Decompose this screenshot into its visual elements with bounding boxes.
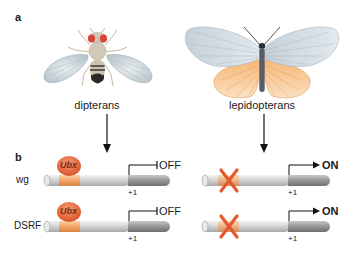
- butterfly-illustration: [185, 27, 338, 98]
- gene-label-wg: wg: [16, 174, 29, 185]
- dna-upstream: [44, 175, 130, 186]
- dna-coding: [288, 175, 330, 186]
- repressed-promoter-arrow: [129, 165, 157, 175]
- dna-upstream: [202, 175, 290, 186]
- tss-label: +1: [288, 188, 297, 197]
- ubx-label: Ubx: [60, 160, 77, 170]
- tss-label: +1: [288, 234, 297, 243]
- state-on-label: ON: [322, 205, 339, 217]
- gene-label-dsrf: DSRF: [14, 220, 41, 231]
- panel-label-b: b: [15, 151, 22, 163]
- label-lepidopterans: lepidopterans: [212, 99, 312, 111]
- butterfly-body: [259, 48, 264, 92]
- state-off-label: OFF: [159, 205, 181, 217]
- ubx-binding-site: [59, 221, 80, 232]
- fly-eye-right: [100, 35, 107, 43]
- fly-wing-left: [44, 54, 88, 82]
- arrow-dipterans-down: [103, 114, 111, 153]
- ubx-binding-site: [59, 175, 80, 186]
- lepidopteran-dsrf-construct: [202, 208, 330, 238]
- dna-upstream: [202, 221, 290, 232]
- arrow-lepidopterans-down: [260, 114, 268, 153]
- fly-thorax: [89, 42, 106, 60]
- dna-upstream: [44, 221, 130, 232]
- fly-eye-left: [88, 35, 95, 43]
- fruit-fly-illustration: [44, 28, 152, 86]
- label-dipterans: dipterans: [47, 99, 147, 111]
- active-promoter-arrow: [289, 211, 314, 221]
- dna-coding: [288, 221, 330, 232]
- repressed-promoter-arrow: [129, 211, 157, 221]
- tss-label: +1: [128, 188, 137, 197]
- ubx-label: Ubx: [60, 206, 77, 216]
- active-promoter-arrow: [289, 165, 314, 175]
- panel-label-a: a: [15, 11, 21, 23]
- dna-coding: [128, 221, 170, 232]
- dna-coding: [128, 175, 170, 186]
- state-off-label: OFF: [159, 159, 181, 171]
- tss-label: +1: [128, 234, 137, 243]
- lepidopteran-wg-construct: [202, 162, 330, 192]
- fly-wing-right: [107, 54, 152, 82]
- state-on-label: ON: [322, 159, 339, 171]
